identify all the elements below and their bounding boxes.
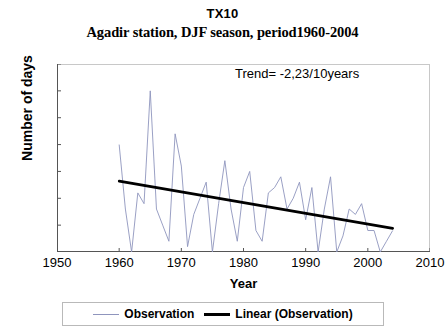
legend-label-linear: Linear (Observation) (235, 307, 352, 321)
plot-border (58, 65, 430, 252)
x-tick-label: 1970 (156, 255, 206, 270)
series-observation-line (119, 91, 393, 252)
legend-line-icon-linear (204, 313, 230, 316)
x-tick-label: 1990 (281, 255, 331, 270)
chart-title: TX10 (0, 6, 445, 21)
legend-item-observation: Observation (93, 307, 194, 321)
chart-legend: Observation Linear (Observation) (62, 302, 384, 326)
axes (57, 64, 430, 252)
legend-label-observation: Observation (124, 307, 194, 321)
y-axis-label: Number of days (19, 23, 35, 193)
chart-figure: TX10 Agadir station, DJF season, period1… (0, 0, 445, 329)
legend-item-linear: Linear (Observation) (204, 307, 352, 321)
chart-subtitle: Agadir station, DJF season, period1960-2… (0, 24, 445, 41)
series-trendline (119, 181, 393, 228)
x-tick-label: 2010 (405, 255, 445, 270)
x-tick-label: 1950 (32, 255, 82, 270)
legend-line-icon-observation (93, 314, 119, 315)
x-axis-label: Year (57, 276, 430, 291)
x-tick-label: 1980 (219, 255, 269, 270)
x-tick-label: 1960 (94, 255, 144, 270)
plot-area (57, 64, 430, 252)
x-tick-label: 2000 (343, 255, 393, 270)
